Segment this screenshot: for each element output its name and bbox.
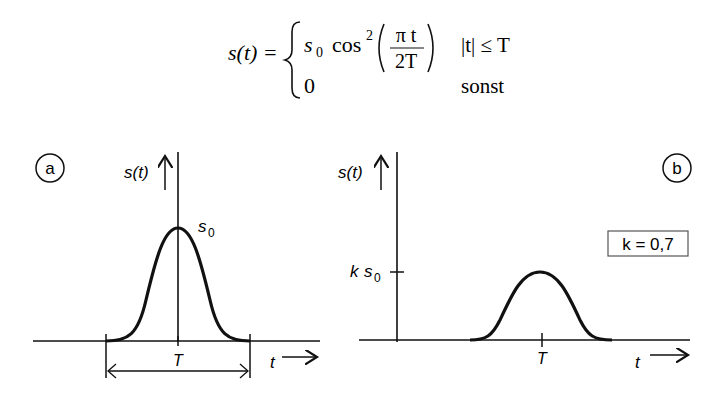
panel-b-param-label: k = 0,7 — [622, 235, 674, 254]
panel-a-badge-label: a — [45, 159, 55, 178]
panel-a-peak-label: s — [198, 217, 207, 236]
panel-b-level-sub: 0 — [374, 271, 381, 285]
panel-a: a s(t) s 0 T t — [33, 152, 320, 378]
panel-a-width-label: T — [173, 352, 184, 369]
panel-b-level-s: s — [364, 262, 373, 281]
panel-b-y-label: s(t) — [338, 163, 363, 182]
panel-b-level-k: k — [350, 262, 360, 281]
panel-a-y-label: s(t) — [124, 163, 149, 182]
panel-b: b s(t) k s 0 T t k = 0,7 — [338, 152, 691, 372]
panel-b-x-label: t — [635, 353, 641, 372]
panel-a-x-label: t — [270, 353, 276, 372]
panel-b-pulse-curve — [470, 272, 612, 340]
panel-b-tick-label: T — [537, 350, 548, 367]
panel-b-badge-label: b — [672, 159, 681, 178]
diagrams: a s(t) s 0 T t b s(t) — [0, 0, 717, 402]
panel-a-peak-sub: 0 — [208, 226, 215, 240]
